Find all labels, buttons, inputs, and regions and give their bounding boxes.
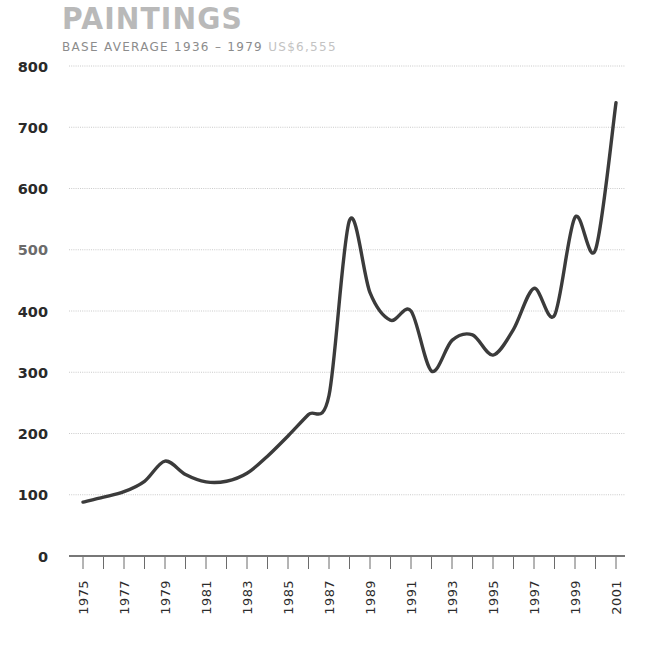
x-axis-tick-label: 1989 bbox=[363, 580, 378, 615]
x-axis-group bbox=[69, 556, 625, 569]
x-axis-tick-label: 1993 bbox=[445, 580, 460, 615]
paintings-chart: PAINTINGS BASE AVERAGE 1936 – 1979 US$6,… bbox=[0, 0, 647, 652]
x-axis-tick-label: 1987 bbox=[322, 580, 337, 615]
chart-plot-area: 0100200300400500600700800 19751977197919… bbox=[0, 0, 647, 652]
y-axis-tick-label: 800 bbox=[18, 59, 48, 75]
x-axis-tick-label: 2001 bbox=[609, 580, 624, 615]
y-axis-tick-label: 700 bbox=[18, 120, 48, 136]
y-axis-tick-label: 500 bbox=[18, 242, 48, 258]
y-axis-labels-group: 0100200300400500600700800 bbox=[18, 59, 48, 565]
y-axis-tick-label: 0 bbox=[38, 549, 48, 565]
x-axis-tick-label: 1975 bbox=[76, 580, 91, 615]
x-axis-tick-label: 1979 bbox=[158, 580, 173, 615]
x-axis-tick-label: 1977 bbox=[117, 580, 132, 615]
y-axis-tick-label: 400 bbox=[18, 304, 48, 320]
y-axis-tick-label: 100 bbox=[18, 487, 48, 503]
y-axis-tick-label: 300 bbox=[18, 365, 48, 381]
x-axis-tick-label: 1997 bbox=[527, 580, 542, 615]
x-axis-tick-label: 1985 bbox=[281, 580, 296, 615]
data-line-series bbox=[83, 103, 616, 502]
x-axis-tick-label: 1995 bbox=[486, 580, 501, 615]
x-axis-tick-label: 1981 bbox=[199, 580, 214, 615]
y-axis-tick-label: 200 bbox=[18, 426, 48, 442]
gridlines-group bbox=[69, 66, 625, 495]
y-axis-tick-label: 600 bbox=[18, 181, 48, 197]
x-axis-tick-label: 1991 bbox=[404, 580, 419, 615]
x-axis-tick-label: 1999 bbox=[568, 580, 583, 615]
x-axis-labels-group: 1975197719791981198319851987198919911993… bbox=[76, 580, 624, 615]
x-axis-tick-label: 1983 bbox=[240, 580, 255, 615]
